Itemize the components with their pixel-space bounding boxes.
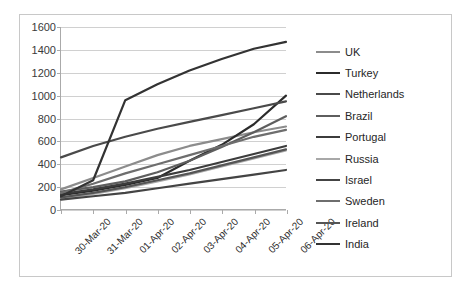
legend-item[interactable]: Ireland: [316, 212, 444, 233]
legend-item[interactable]: India: [316, 234, 444, 255]
y-tick-label: 400: [38, 158, 56, 170]
x-tick-mark: [255, 210, 256, 214]
legend-label: UK: [345, 46, 360, 58]
y-tick-label: 1600: [32, 21, 56, 33]
x-tick-mark: [61, 210, 62, 214]
legend-label: Sweden: [345, 195, 385, 207]
y-tick-label: 600: [38, 135, 56, 147]
y-tick-label: 800: [38, 113, 56, 125]
legend-swatch-icon: [316, 158, 340, 160]
legend-swatch-icon: [316, 72, 340, 74]
legend-item[interactable]: Israel: [316, 169, 444, 190]
legend-label: Turkey: [345, 67, 378, 79]
y-tick-label: 200: [38, 181, 56, 193]
legend-swatch-icon: [316, 115, 340, 117]
legend-swatch-icon: [316, 136, 340, 138]
legend-item[interactable]: Sweden: [316, 191, 444, 212]
legend-item[interactable]: Portugal: [316, 127, 444, 148]
x-tick-mark: [287, 210, 288, 214]
series-lines: [61, 27, 286, 210]
series-line: [61, 101, 286, 157]
x-tick-mark: [93, 210, 94, 214]
legend-label: Israel: [345, 174, 372, 186]
legend: UKTurkeyNetherlandsBrazilPortugalRussiaI…: [316, 41, 444, 255]
x-tick-mark: [158, 210, 159, 214]
y-tick-label: 1000: [32, 90, 56, 102]
legend-label: Portugal: [345, 131, 386, 143]
legend-swatch-icon: [316, 93, 340, 95]
legend-label: Ireland: [345, 217, 379, 229]
legend-item[interactable]: Netherlands: [316, 84, 444, 105]
legend-item[interactable]: Turkey: [316, 62, 444, 83]
y-tick-label: 1200: [32, 67, 56, 79]
legend-label: Brazil: [345, 110, 373, 122]
plot-area: 02004006008001000120014001600 30-Mar-203…: [60, 27, 286, 210]
legend-swatch-icon: [316, 222, 340, 224]
y-tick-label: 1400: [32, 44, 56, 56]
series-line: [61, 130, 286, 193]
x-axis: [61, 209, 286, 210]
legend-label: Russia: [345, 153, 379, 165]
x-tick-mark: [190, 210, 191, 214]
x-tick-mark: [126, 210, 127, 214]
legend-item[interactable]: Russia: [316, 148, 444, 169]
legend-swatch-icon: [316, 179, 340, 181]
legend-label: Netherlands: [345, 88, 404, 100]
y-tick-label: 0: [50, 204, 56, 216]
chart-container: 02004006008001000120014001600 30-Mar-203…: [19, 14, 452, 277]
x-tick-mark: [222, 210, 223, 214]
gridline: [61, 210, 286, 211]
legend-label: India: [345, 238, 369, 250]
legend-swatch-icon: [316, 200, 340, 202]
legend-swatch-icon: [316, 243, 340, 245]
legend-item[interactable]: UK: [316, 41, 444, 62]
legend-item[interactable]: Brazil: [316, 105, 444, 126]
legend-swatch-icon: [316, 51, 340, 53]
